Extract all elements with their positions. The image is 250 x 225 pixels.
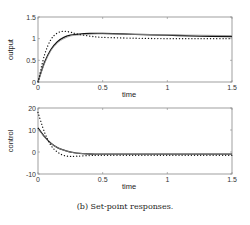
y-axis-label: output: [6, 38, 15, 60]
y-tick-label: -10: [26, 171, 36, 178]
x-axis-label: time: [122, 90, 136, 99]
x-tick-label: 0: [36, 176, 40, 183]
x-tick-label: 1: [165, 84, 169, 91]
series-solid-gray: [38, 34, 232, 82]
y-tick-label: 0.5: [26, 57, 36, 64]
x-tick-label: 0.5: [98, 84, 108, 91]
axes-box: [38, 17, 232, 82]
x-tick-label: 1.5: [227, 176, 237, 183]
series-solid-gray: [38, 129, 232, 154]
series-dotted: [38, 112, 232, 156]
y-tick-label: 10: [28, 127, 36, 134]
x-tick-label: 1.5: [227, 84, 237, 91]
x-tick-label: 0.5: [98, 176, 108, 183]
figure: 00.511.500.511.5timeoutput00.511.5-10010…: [0, 0, 250, 225]
y-tick-label: 0: [32, 149, 36, 156]
figure-caption: (b) Set-point responses.: [0, 202, 250, 211]
y-tick-label: 1.5: [26, 14, 36, 21]
series-solid-black: [38, 33, 232, 82]
x-tick-label: 0: [36, 84, 40, 91]
y-tick-label: 20: [28, 105, 36, 112]
x-tick-label: 1: [165, 176, 169, 183]
axes-box: [38, 108, 232, 174]
x-axis-label: time: [122, 182, 136, 191]
y-tick-label: 1: [32, 35, 36, 42]
y-axis-label: control: [6, 129, 15, 152]
series-solid-black: [38, 128, 232, 154]
series-dotted: [38, 31, 232, 82]
y-tick-label: 0: [32, 79, 36, 86]
control-plot: 00.511.5-1001020timecontrol: [6, 105, 237, 192]
output-plot: 00.511.500.511.5timeoutput: [6, 14, 237, 100]
